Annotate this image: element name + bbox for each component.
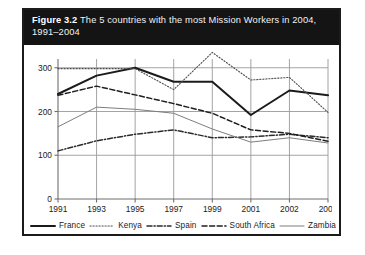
legend-label: France [59, 221, 85, 230]
legend-label: Spain [175, 221, 196, 230]
legend-item-spain[interactable]: Spain [146, 221, 196, 230]
figure-number-label: Figure 3.2 [32, 15, 77, 25]
gridlines [58, 59, 328, 199]
legend-swatch-spain [146, 222, 172, 230]
legend-item-kenya[interactable]: Kenya [89, 221, 142, 230]
x-tick-label: 1997 [164, 204, 183, 214]
legend-swatch-zambia [279, 222, 305, 230]
line-chart: 0100200300 19911993199519971999200120022… [32, 51, 332, 232]
y-tick-label: 300 [38, 63, 52, 73]
legend-swatch-kenya [89, 222, 115, 230]
legend-item-south-africa[interactable]: South Africa [201, 221, 275, 230]
figure-container: Figure 3.2 The 5 countries with the most… [22, 8, 341, 236]
y-axis-tick-labels: 0100200300 [38, 63, 52, 204]
x-tick-label: 2001 [242, 204, 261, 214]
chart-legend: FranceKenyaSpainSouth AfricaZambia [30, 221, 336, 230]
x-tick-label: 1991 [49, 204, 68, 214]
chart-body: 0100200300 19911993199519971999200120022… [24, 45, 339, 234]
data-series-group [58, 52, 328, 150]
x-tick-label: 2002 [280, 204, 299, 214]
x-tick-label: 2004 [319, 204, 332, 214]
x-tick-label: 1993 [87, 204, 106, 214]
figure-title-banner: Figure 3.2 The 5 countries with the most… [24, 10, 339, 45]
legend-swatch-france [30, 222, 56, 230]
x-tick-label: 1999 [203, 204, 222, 214]
series-line-zambia [58, 107, 328, 143]
figure-title-text: Figure 3.2 The 5 countries with the most… [32, 15, 332, 38]
y-tick-label: 200 [38, 107, 52, 117]
legend-label: Zambia [308, 221, 336, 230]
axes [55, 59, 329, 203]
series-line-south-africa [58, 86, 328, 141]
plot-area: 0100200300 19911993199519971999200120022… [32, 51, 332, 232]
legend-label: South Africa [230, 221, 275, 230]
legend-label: Kenya [118, 221, 142, 230]
legend-item-zambia[interactable]: Zambia [279, 221, 336, 230]
x-tick-label: 1995 [126, 204, 145, 214]
legend-item-france[interactable]: France [30, 221, 85, 230]
y-tick-label: 0 [47, 194, 52, 204]
x-axis-tick-labels: 19911993199519971999200120022004 [49, 204, 332, 214]
y-tick-label: 100 [38, 150, 52, 160]
legend-swatch-south-africa [201, 222, 227, 230]
